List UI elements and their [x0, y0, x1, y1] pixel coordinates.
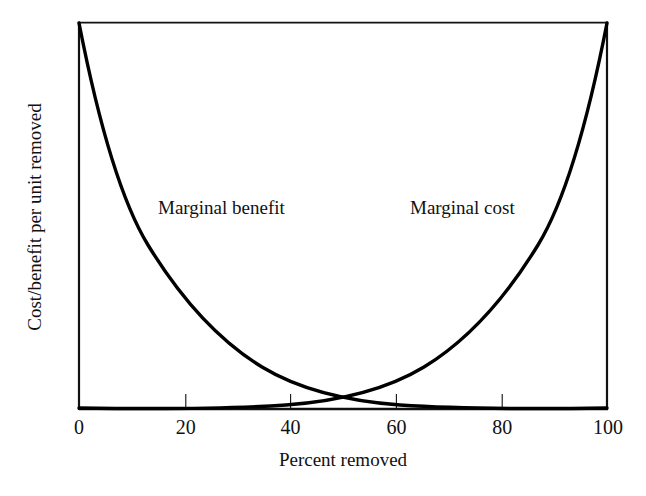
- chart-canvas: Marginal benefit Marginal cost 0 20 40 6…: [0, 0, 646, 496]
- x-tick-label-20: 20: [176, 416, 196, 438]
- figure-root: Marginal benefit Marginal cost 0 20 40 6…: [0, 0, 646, 496]
- x-tick-label-60: 60: [386, 416, 406, 438]
- y-axis-title: Cost/benefit per unit removed: [24, 103, 45, 331]
- figure-background: [0, 0, 646, 496]
- x-tick-label-40: 40: [281, 416, 301, 438]
- x-tick-label-100: 100: [593, 416, 623, 438]
- x-axis-title: Percent removed: [279, 449, 408, 470]
- annotation-marginal-cost: Marginal cost: [410, 197, 515, 218]
- x-tick-label-80: 80: [492, 416, 512, 438]
- annotation-marginal-benefit: Marginal benefit: [158, 197, 286, 218]
- x-tick-label-0: 0: [74, 416, 84, 438]
